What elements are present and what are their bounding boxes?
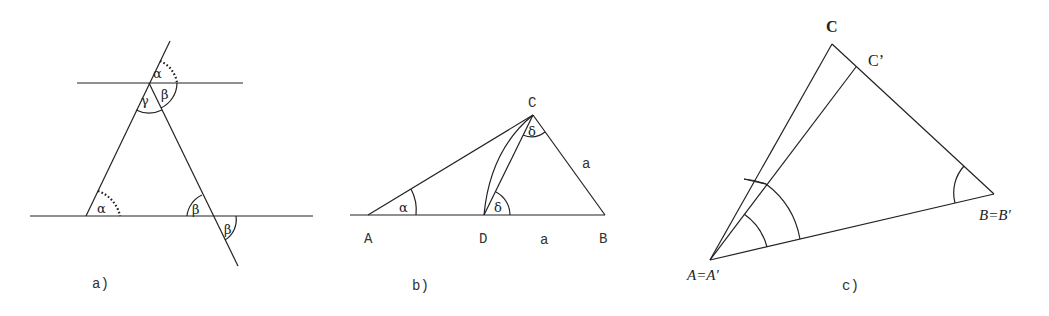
vertex-D-label: D: [479, 231, 487, 247]
vertex-A-label: A: [364, 231, 373, 247]
vertex-C-label: C: [826, 18, 838, 35]
side-CB: [832, 44, 994, 194]
beta-bottom-left-label: β: [192, 202, 200, 217]
alpha-top-label: α: [153, 66, 162, 81]
alpha-bottom-label: α: [97, 201, 106, 216]
alpha-label: α: [399, 200, 408, 215]
gamma-label: γ: [141, 93, 149, 108]
alpha-arc: [411, 189, 416, 215]
side-CB-label: a: [582, 156, 590, 172]
beta-top-label: β: [161, 87, 169, 102]
vertex-C-prime-label: C’: [868, 52, 884, 69]
panel-c: C C’ A=A′ B=B′ c): [686, 18, 1011, 294]
geometry-figure: α β γ α β β a) α δ δ C a A D a B b): [0, 0, 1049, 316]
side-CB: [533, 115, 605, 215]
vertex-C-label: C: [528, 95, 536, 111]
right-transversal: [149, 83, 238, 266]
angle-A-inner-arc: [744, 214, 767, 247]
caption-c: c): [842, 278, 859, 294]
caption-a: a): [92, 276, 109, 292]
panel-b: α δ δ C a A D a B b): [350, 95, 607, 294]
angle-A-outer-arc: [766, 184, 800, 239]
delta-D-label: δ: [494, 200, 502, 215]
vertex-A-label: A=A′: [686, 267, 719, 283]
delta-C-label: δ: [528, 124, 536, 139]
side-AC: [710, 44, 832, 260]
beta-bottom-right-label: β: [224, 222, 232, 237]
vertex-B-label: B=B′: [979, 207, 1011, 223]
panel-a: α β γ α β β a): [30, 41, 313, 292]
caption-b: b): [412, 278, 429, 294]
alpha-top-arc: [160, 61, 177, 83]
gamma-arc: [136, 110, 162, 113]
vertex-B-label: B: [599, 231, 607, 247]
side-DB-label: a: [540, 232, 548, 248]
angle-B-arc: [954, 166, 964, 203]
